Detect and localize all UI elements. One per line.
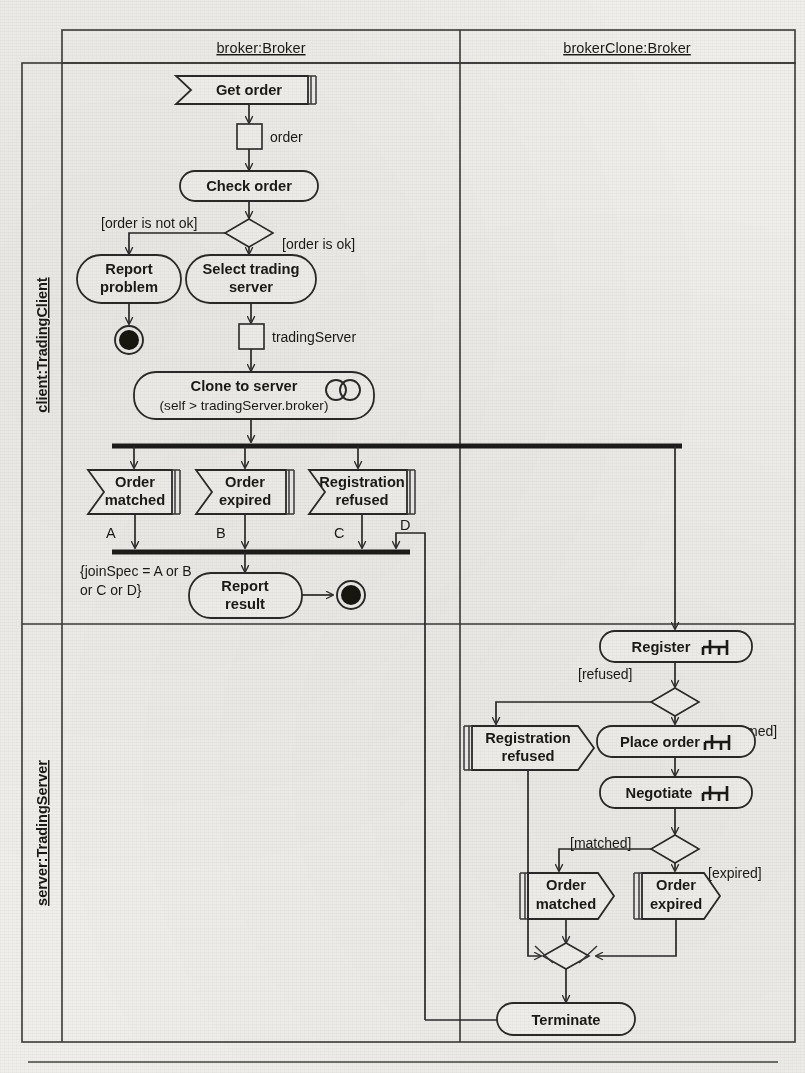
node-trading-server-pin[interactable]: tradingServer (239, 324, 356, 349)
edge-label-a: A (106, 525, 116, 541)
guard-expired: [expired] (708, 865, 762, 881)
node-send-order-matched[interactable]: Order matched (520, 873, 614, 919)
node-send-order-expired[interactable]: Order expired (634, 873, 720, 919)
node-report-problem-line1: Report (105, 261, 152, 277)
node-terminate[interactable]: Terminate (497, 1003, 635, 1035)
node-negotiate[interactable]: Negotiate (600, 777, 752, 808)
node-order-pin[interactable]: order (237, 124, 303, 149)
node-register-label: Register (632, 639, 691, 655)
node-send-registration-refused[interactable]: Registration refused (464, 726, 594, 770)
partition-label-server: server:TradingServer (34, 760, 50, 906)
node-accept-order-matched[interactable]: Order matched (88, 470, 180, 514)
node-accept-registration-refused[interactable]: Registration refused (309, 470, 415, 514)
node-send-order-matched-line2: matched (536, 896, 596, 912)
node-report-result-line1: Report (221, 578, 268, 594)
node-accept-registration-refused-line2: refused (335, 492, 388, 508)
node-accept-order-expired-line2: expired (219, 492, 271, 508)
node-send-order-matched-line1: Order (546, 877, 586, 893)
node-trading-server-pin-label: tradingServer (272, 329, 356, 345)
node-order-pin-label: order (270, 129, 303, 145)
node-send-order-expired-line2: expired (650, 896, 702, 912)
edge-label-b: B (216, 525, 226, 541)
node-clone-to-server-line1: Clone to server (191, 378, 298, 394)
node-select-trading-server[interactable]: Select trading server (186, 255, 316, 303)
edge-label-c: C (334, 525, 344, 541)
node-decision-registration[interactable] (651, 688, 699, 716)
edge-send-order-expired-to-merge (596, 919, 676, 956)
node-send-order-expired-line1: Order (656, 877, 696, 893)
node-terminate-label: Terminate (531, 1012, 600, 1028)
partition-header-brokerclone: brokerClone:Broker (563, 40, 691, 56)
guard-order-is-not-ok: [order is not ok] (101, 215, 198, 231)
node-report-result[interactable]: Report result (189, 573, 302, 618)
node-send-registration-refused-line1: Registration (485, 730, 571, 746)
node-activity-final-2[interactable] (337, 581, 365, 609)
edge-decision-to-send-order-matched (559, 849, 651, 871)
node-activity-final-1[interactable] (115, 326, 143, 354)
node-place-order[interactable]: Place order (597, 726, 755, 757)
partition-label-client: client:TradingClient (34, 277, 50, 413)
node-report-result-line2: result (225, 596, 265, 612)
node-decision-negotiation[interactable] (651, 835, 699, 863)
constraint-joinspec-line2: or C or D} (80, 582, 142, 598)
activity-diagram-page: broker:Broker brokerClone:Broker client:… (0, 0, 805, 1073)
partition-header-broker: broker:Broker (216, 40, 305, 56)
node-get-order[interactable]: Get order (176, 76, 316, 104)
node-select-trading-server-line2: server (229, 279, 273, 295)
node-negotiate-label: Negotiate (626, 785, 693, 801)
node-accept-registration-refused-line1: Registration (319, 474, 405, 490)
node-send-registration-refused-line2: refused (501, 748, 554, 764)
node-get-order-label: Get order (216, 82, 282, 98)
edge-terminate-to-join-d (396, 533, 425, 1020)
node-decision-order-ok[interactable] (225, 219, 273, 247)
node-check-order-label: Check order (206, 178, 292, 194)
node-clone-to-server[interactable]: Clone to server (self > tradingServer.br… (134, 372, 374, 419)
node-clone-to-server-line2: (self > tradingServer.broker) (160, 398, 329, 413)
node-accept-order-expired-line1: Order (225, 474, 265, 490)
node-report-problem[interactable]: Report problem (77, 255, 181, 303)
node-place-order-label: Place order (620, 734, 700, 750)
activity-diagram-canvas: broker:Broker brokerClone:Broker client:… (0, 0, 805, 1073)
constraint-joinspec-line1: {joinSpec = A or B (80, 563, 192, 579)
edge-decision-to-report-problem (129, 233, 225, 254)
node-check-order[interactable]: Check order (180, 171, 318, 201)
node-register[interactable]: Register (600, 631, 752, 662)
node-accept-order-matched-line2: matched (105, 492, 165, 508)
node-accept-order-matched-line1: Order (115, 474, 155, 490)
edge-decision-to-send-registration-refused (496, 702, 651, 724)
edge-label-d: D (400, 517, 410, 533)
guard-refused: [refused] (578, 666, 632, 682)
node-select-trading-server-line1: Select trading (202, 261, 299, 277)
node-accept-order-expired[interactable]: Order expired (196, 470, 294, 514)
node-report-problem-line2: problem (100, 279, 158, 295)
edge-send-registration-refused-to-merge (528, 770, 541, 956)
node-merge[interactable] (535, 943, 597, 969)
guard-order-is-ok: [order is ok] (282, 236, 355, 252)
